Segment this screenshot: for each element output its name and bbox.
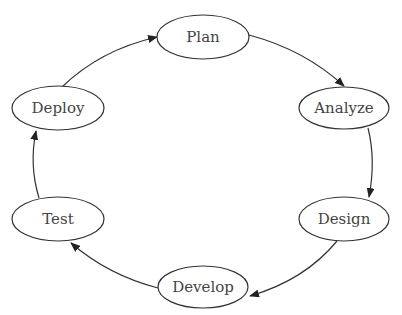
node-plan: Plan	[157, 15, 249, 59]
node-label-test: Test	[42, 210, 73, 228]
node-develop: Develop	[158, 266, 248, 308]
edge-analyze-to-design	[368, 128, 372, 197]
edge-design-to-develop	[250, 241, 337, 296]
edge-plan-to-analyze	[249, 35, 344, 86]
node-design: Design	[299, 197, 389, 241]
node-label-develop: Develop	[172, 278, 234, 296]
edge-test-to-deploy	[33, 131, 39, 198]
node-label-plan: Plan	[186, 28, 220, 46]
node-test: Test	[12, 197, 104, 241]
node-analyze: Analyze	[299, 87, 389, 129]
node-label-design: Design	[318, 210, 371, 228]
node-label-analyze: Analyze	[313, 99, 374, 117]
edge-deploy-to-plan	[62, 37, 157, 87]
node-deploy: Deploy	[12, 86, 104, 130]
node-label-deploy: Deploy	[32, 99, 85, 117]
edge-develop-to-test	[71, 243, 158, 288]
cycle-diagram: Plan Analyze Design Develop Test Deploy	[0, 0, 402, 315]
